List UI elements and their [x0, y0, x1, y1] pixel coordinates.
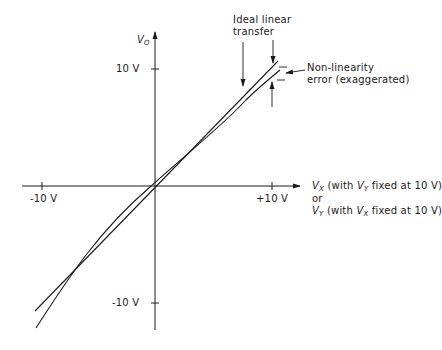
y-tick-label-pos: 10 V [116, 63, 140, 75]
x-axis-label-or: or [312, 193, 323, 205]
ideal-transfer-label-2: transfer [233, 26, 274, 38]
x-tick-label-neg: -10 V [30, 193, 57, 205]
ideal-transfer-label-1: Ideal linear [233, 14, 291, 26]
x-tick-label-pos: +10 V [256, 193, 288, 205]
error-label-1: Non-linearity [307, 62, 374, 74]
actual-transfer-curve [36, 70, 280, 328]
y-axis-label: VO [137, 34, 150, 49]
error-pointer [286, 70, 305, 73]
y-tick-label-neg: -10 V [112, 297, 139, 309]
x-axis-label-line1: VX (with VY fixed at 10 V) [312, 180, 442, 195]
error-label-2: error (exaggerated) [307, 74, 410, 86]
x-axis-label-line2: VY (with VX fixed at 10 V) [312, 205, 442, 220]
